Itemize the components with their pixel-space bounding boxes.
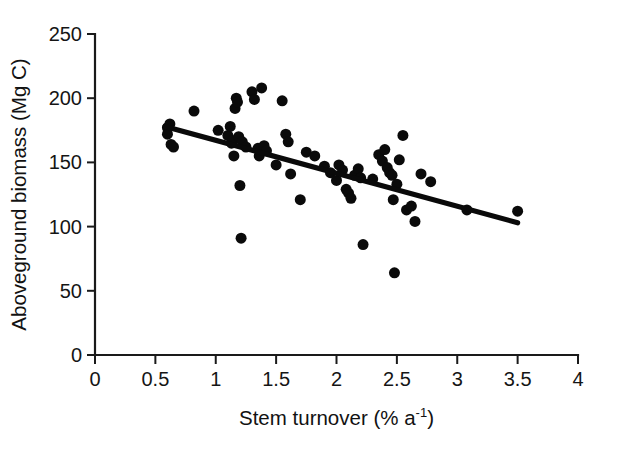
data-point <box>388 194 399 205</box>
scatter-plot: 05010015020025000.511.522.533.54Stem tur… <box>0 0 619 454</box>
data-point <box>416 168 427 179</box>
data-point <box>512 206 523 217</box>
data-point <box>249 94 260 105</box>
data-point <box>228 150 239 161</box>
data-point <box>394 154 405 165</box>
data-point <box>425 176 436 187</box>
y-tick-label-200: 200 <box>49 87 82 109</box>
x-tick-label-0.5: 0.5 <box>141 368 169 390</box>
y-axis-title: Aboveground biomass (Mg C) <box>7 58 30 330</box>
data-point <box>283 136 294 147</box>
data-point <box>189 106 200 117</box>
y-tick-label-0: 0 <box>71 344 82 366</box>
data-point <box>256 82 267 93</box>
data-point <box>225 121 236 132</box>
x-tick-label-3.5: 3.5 <box>504 368 532 390</box>
y-tick-label-250: 250 <box>49 23 82 45</box>
data-point <box>389 267 400 278</box>
data-point <box>397 130 408 141</box>
data-point <box>232 97 243 108</box>
data-point <box>406 201 417 212</box>
y-tick-label-100: 100 <box>49 216 82 238</box>
data-point <box>234 180 245 191</box>
data-point <box>285 168 296 179</box>
y-tick-label-150: 150 <box>49 151 82 173</box>
x-tick-label-2: 2 <box>331 368 342 390</box>
data-point <box>277 95 288 106</box>
data-point <box>358 239 369 250</box>
data-point <box>213 125 224 136</box>
data-point <box>345 193 356 204</box>
data-point <box>271 159 282 170</box>
x-tick-label-2.5: 2.5 <box>383 368 411 390</box>
x-tick-label-0: 0 <box>89 368 100 390</box>
data-point <box>236 233 247 244</box>
data-point <box>379 144 390 155</box>
x-tick-label-4: 4 <box>572 368 583 390</box>
figure-container: 05010015020025000.511.522.533.54Stem tur… <box>0 0 619 454</box>
x-tick-label-1: 1 <box>210 368 221 390</box>
x-tick-label-3: 3 <box>452 368 463 390</box>
data-point <box>409 216 420 227</box>
x-tick-label-1.5: 1.5 <box>262 368 290 390</box>
data-point <box>295 194 306 205</box>
x-axis-title: Stem turnover (% a-1) <box>239 405 434 429</box>
data-point <box>168 141 179 152</box>
y-tick-label-50: 50 <box>60 280 82 302</box>
data-point <box>309 150 320 161</box>
